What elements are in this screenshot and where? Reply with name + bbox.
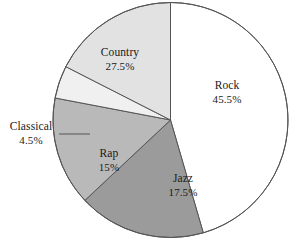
pie-chart-canvas [0,0,293,244]
pie-chart: Rock 45.5% Jazz 17.5% Rap 15% Classical … [0,0,293,244]
